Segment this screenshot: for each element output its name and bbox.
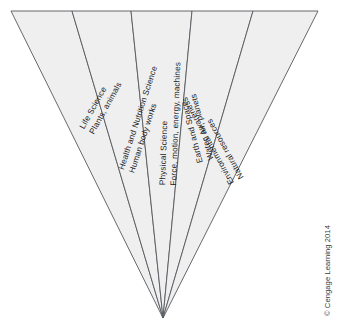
copyright-credit: © Cengage Learning 2014 (323, 225, 332, 316)
science-fan-diagram: Life SciencePlants, animalsHealth and Nu… (0, 0, 339, 330)
wedge-group (11, 11, 318, 318)
fan-diagram-graphic (0, 0, 339, 330)
